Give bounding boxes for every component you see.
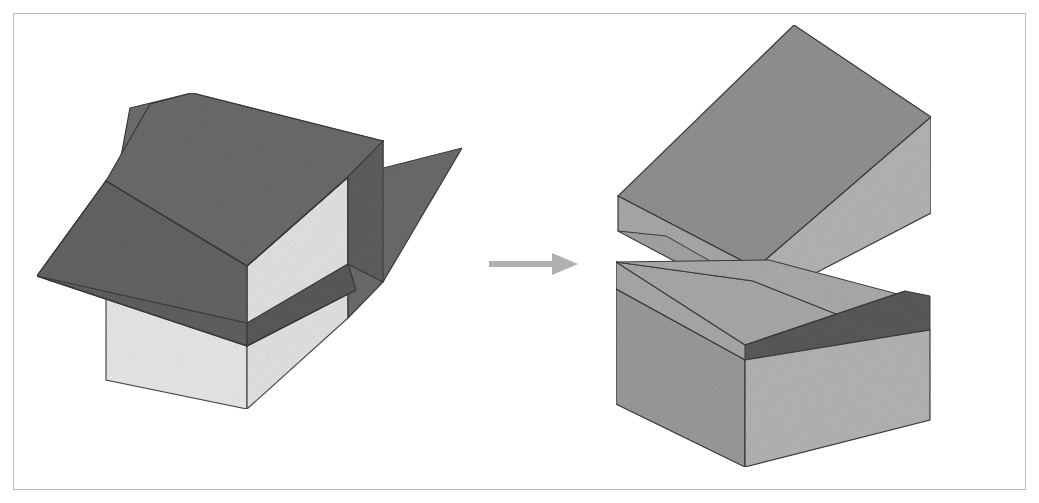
arrow-head-icon	[552, 253, 578, 275]
figure-root: Exploded solid split into two halves Tec…	[0, 0, 1039, 503]
right-panel-separated-solid	[616, 25, 931, 467]
transformation-arrow	[489, 253, 578, 275]
left-panel-assembled-solid	[37, 93, 462, 409]
figure-illustration	[0, 0, 1039, 503]
